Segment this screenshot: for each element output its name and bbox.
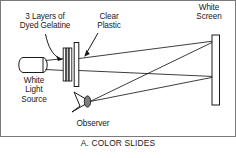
label-observer: Observer bbox=[62, 119, 124, 128]
clear-plastic-sheet bbox=[74, 43, 79, 87]
plastic-leader-arrow bbox=[84, 33, 98, 57]
projection-rays bbox=[79, 41, 214, 77]
gelatine-leader-arrow bbox=[46, 34, 63, 61]
white-light-source bbox=[19, 58, 47, 73]
dyed-gelatine-layers bbox=[63, 48, 72, 81]
observer-eye bbox=[72, 92, 91, 112]
label-clear-plastic: Clear Plastic bbox=[86, 12, 132, 31]
label-dyed-gelatine: 3 Layers of Dyed Gelatine bbox=[8, 12, 82, 31]
color-slides-figure: 3 Layers of Dyed Gelatine Clear Plastic … bbox=[0, 0, 236, 158]
figure-caption: A. COLOR SLIDES bbox=[0, 138, 236, 148]
white-screen bbox=[212, 35, 220, 105]
illumination-rays bbox=[46, 59, 65, 71]
label-white-screen: White Screen bbox=[186, 3, 232, 22]
label-white-light-source: White Light Source bbox=[8, 76, 60, 104]
